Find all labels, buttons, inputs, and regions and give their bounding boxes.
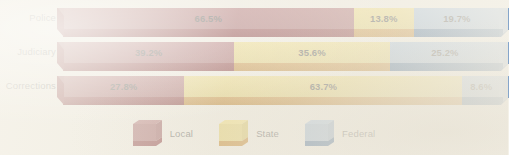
bar-bottom-face [63, 63, 500, 71]
segment-value-label: 39.2% [135, 47, 162, 58]
bar-bottom-face [63, 97, 500, 105]
bar-segment-state[interactable]: 35.6% [234, 42, 390, 63]
bar-track: 27.8%63.7%8.6% [63, 76, 500, 106]
segment-value-label: 35.6% [298, 47, 325, 58]
bar-left-bevel [57, 8, 64, 37]
bar-right-bevel [499, 42, 509, 71]
bar-segment-shadow-state [234, 63, 390, 71]
segment-value-label: 8.6% [470, 81, 492, 92]
legend-item-state[interactable]: State [219, 120, 279, 146]
bar-row: Judiciary39.2%35.6%25.2% [0, 42, 508, 76]
bar-top-face: 66.5%13.8%19.7% [63, 8, 500, 29]
chart-legend: LocalStateFederal [0, 116, 508, 150]
bar-left-bevel [57, 42, 64, 71]
bar-right-bevel [499, 76, 509, 105]
bar-right-bevel [499, 8, 509, 37]
segment-value-label: 66.5% [195, 13, 222, 24]
bar-segment-shadow-state [184, 97, 462, 105]
bar-left-bevel [57, 76, 64, 105]
cube-icon [219, 120, 249, 146]
bar-segment-shadow-local [63, 97, 184, 105]
legend-label: State [256, 128, 279, 139]
cube-icon [305, 120, 335, 146]
segment-value-label: 27.8% [110, 81, 137, 92]
bar-segment-federal[interactable]: 25.2% [390, 42, 500, 63]
legend-label: Local [170, 128, 193, 139]
bar-track: 66.5%13.8%19.7% [63, 8, 500, 38]
bar-segment-shadow-local [63, 29, 354, 37]
segment-value-label: 25.2% [431, 47, 458, 58]
legend-item-federal[interactable]: Federal [305, 120, 375, 146]
legend-item-local[interactable]: Local [133, 120, 193, 146]
legend-label: Federal [342, 128, 375, 139]
bar-segment-shadow-federal [462, 97, 500, 105]
bar-segment-shadow-federal [390, 63, 500, 71]
bar-bottom-face [63, 29, 500, 37]
bar-segment-local[interactable]: 39.2% [63, 42, 234, 63]
bar-segment-shadow-local [63, 63, 234, 71]
bar-segment-local[interactable]: 66.5% [63, 8, 354, 29]
bar-segment-federal[interactable]: 8.6% [462, 76, 500, 97]
bar-top-face: 39.2%35.6%25.2% [63, 42, 500, 63]
cube-icon [133, 120, 163, 146]
bar-track: 39.2%35.6%25.2% [63, 42, 500, 72]
segment-value-label: 13.8% [370, 13, 397, 24]
bar-row: Police66.5%13.8%19.7% [0, 8, 508, 42]
segment-value-label: 63.7% [310, 81, 337, 92]
category-label: Judiciary [0, 46, 56, 57]
bar-segment-state[interactable]: 13.8% [354, 8, 414, 29]
bar-segment-state[interactable]: 63.7% [184, 76, 462, 97]
segment-value-label: 19.7% [443, 13, 470, 24]
bar-segment-shadow-federal [414, 29, 500, 37]
bar-row: Corrections27.8%63.7%8.6% [0, 76, 508, 110]
category-label: Corrections [0, 80, 56, 91]
bar-segment-federal[interactable]: 19.7% [414, 8, 500, 29]
bar-segment-local[interactable]: 27.8% [63, 76, 184, 97]
category-label: Police [0, 12, 56, 23]
bar-top-face: 27.8%63.7%8.6% [63, 76, 500, 97]
bar-segment-shadow-state [354, 29, 414, 37]
